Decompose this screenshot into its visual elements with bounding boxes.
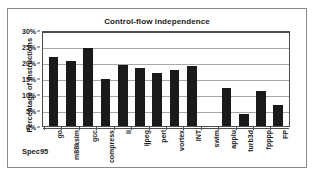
x-label-slot: compress <box>96 130 113 166</box>
bar-slot <box>270 32 287 126</box>
x-label-slot: fpppp <box>253 130 270 166</box>
x-label-slot: swim <box>201 130 218 166</box>
x-axis-title: Spec95 <box>22 147 48 156</box>
bar <box>170 70 180 126</box>
bar-slot <box>131 32 148 126</box>
bar <box>239 114 249 126</box>
chart-figure: Control-flow independence Percentage of … <box>7 8 307 168</box>
bar-slot <box>62 32 79 126</box>
y-axis-tick-mark <box>37 127 40 128</box>
y-axis-tick-mark <box>37 111 40 112</box>
x-label-slot: applu <box>218 130 235 166</box>
bar-slot <box>252 32 269 126</box>
bar <box>273 105 283 126</box>
bar-slot <box>114 32 131 126</box>
bar-slot <box>97 32 114 126</box>
chart-title: Control-flow independence <box>8 17 306 26</box>
x-label-slot: vortex <box>166 130 183 166</box>
bar <box>118 65 128 126</box>
y-axis-tick-labels: 0%5%10%15%20%25%30% <box>8 31 40 127</box>
y-axis-tick-label: 30% <box>22 28 36 35</box>
y-axis-tick-mark <box>37 79 40 80</box>
y-axis-tick-label: 10% <box>22 92 36 99</box>
bar-slot <box>183 32 200 126</box>
bar <box>83 48 93 126</box>
plot-area <box>42 31 290 127</box>
x-label-slot: m88ksim <box>61 130 78 166</box>
x-label-slot: ijpeg <box>131 130 148 166</box>
bar <box>101 79 111 126</box>
bar-slot <box>235 32 252 126</box>
y-axis-tick-label: 5% <box>26 108 36 115</box>
y-axis-tick-label: 15% <box>22 76 36 83</box>
bar <box>66 61 76 126</box>
bar <box>187 66 197 126</box>
y-axis-tick-mark <box>37 47 40 48</box>
bar <box>222 88 232 126</box>
bar <box>256 91 266 126</box>
x-label-slot: turb3d <box>236 130 253 166</box>
x-axis-category-labels: gom88ksimgcccompressliijpegperlvortexINT… <box>42 130 290 166</box>
bar-series <box>43 32 289 126</box>
y-axis-tick-label: 20% <box>22 60 36 67</box>
y-axis-tick-mark <box>37 63 40 64</box>
y-axis-tick-label: 0% <box>26 124 36 131</box>
bar <box>152 73 162 126</box>
bar <box>135 68 145 126</box>
x-label-slot: FP <box>270 130 287 166</box>
y-axis-tick-label: 25% <box>22 44 36 51</box>
bar-slot <box>201 32 218 126</box>
x-axis-category-label: FP <box>282 130 289 139</box>
bar-slot <box>218 32 235 126</box>
bar-slot <box>166 32 183 126</box>
bar-slot <box>45 32 62 126</box>
bar-slot <box>80 32 97 126</box>
bar-slot <box>149 32 166 126</box>
y-axis-tick-mark <box>37 31 40 32</box>
x-label-slot: perl <box>149 130 166 166</box>
bar <box>49 57 59 126</box>
x-label-slot: li <box>114 130 131 166</box>
x-label-slot: INT <box>183 130 200 166</box>
y-axis-tick-mark <box>37 95 40 96</box>
x-label-slot: gcc <box>79 130 96 166</box>
